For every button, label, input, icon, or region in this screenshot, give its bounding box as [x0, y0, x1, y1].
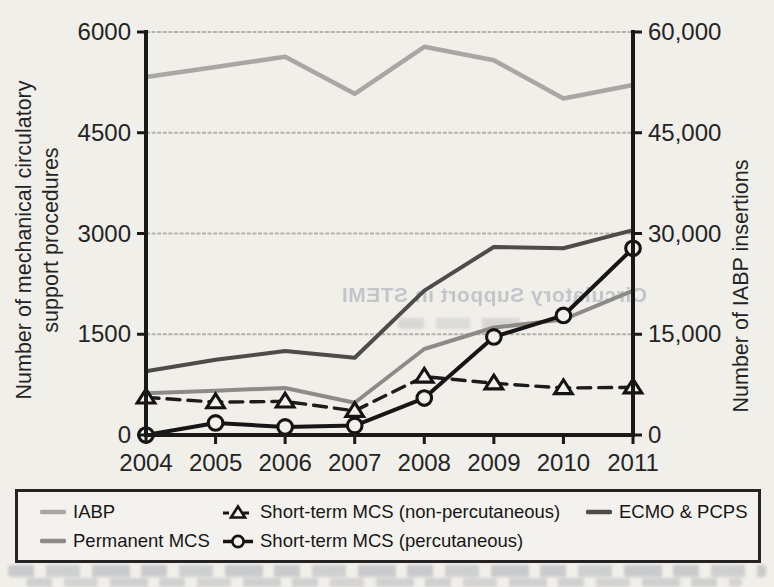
svg-text:2011: 2011 [607, 449, 659, 476]
svg-text:0: 0 [118, 421, 131, 448]
legend-item-iabp: IABP [40, 501, 115, 523]
svg-text:3000: 3000 [78, 220, 131, 247]
legend-label-permanent-mcs: Permanent MCS [73, 530, 210, 552]
legend-label-ecmo-pcps: ECMO & PCPS [619, 501, 748, 523]
svg-text:support procedures: support procedures [39, 147, 63, 332]
legend-label-short-term-percutaneous: Short-term MCS (percutaneous) [260, 530, 523, 552]
ecmo-pcps-line-swatch [586, 506, 612, 518]
svg-text:2005: 2005 [189, 449, 242, 476]
svg-text:30,000: 30,000 [648, 220, 721, 247]
svg-text:2009: 2009 [467, 449, 520, 476]
legend-item-short-term-percutaneous: Short-term MCS (percutaneous) [223, 530, 523, 552]
iabp-line-swatch [40, 506, 66, 518]
legend-label-short-term-nonpercutaneous: Short-term MCS (non-percutaneous) [260, 501, 560, 523]
svg-text:2010: 2010 [537, 449, 590, 476]
permanent-mcs-line-swatch [40, 535, 66, 547]
chart-svg: 01500300045006000015,00030,00045,00060,0… [0, 0, 774, 486]
svg-text:Number of mechanical circulato: Number of mechanical circulatory [12, 80, 36, 399]
circle-line-swatch [223, 533, 253, 550]
legend-item-permanent-mcs: Permanent MCS [40, 530, 210, 552]
svg-text:0: 0 [648, 421, 661, 448]
legend-item-short-term-nonpercutaneous: Short-term MCS (non-percutaneous) [223, 501, 560, 523]
svg-text:60,000: 60,000 [648, 18, 721, 45]
chart-legend: IABP Permanent MCS Short-term MCS (non-p… [15, 489, 761, 563]
triangle-line-swatch [223, 504, 253, 521]
svg-text:1500: 1500 [78, 320, 131, 347]
svg-text:2004: 2004 [119, 449, 172, 476]
svg-text:15,000: 15,000 [648, 320, 721, 347]
svg-text:2006: 2006 [258, 449, 311, 476]
legend-label-iabp: IABP [73, 501, 115, 523]
svg-text:2007: 2007 [328, 449, 381, 476]
svg-text:45,000: 45,000 [648, 119, 721, 146]
figure-page: Circulatory Support in STEMI 01500300045… [0, 0, 774, 587]
svg-text:4500: 4500 [78, 119, 131, 146]
svg-text:2008: 2008 [398, 449, 451, 476]
showthrough-text-line-2 [26, 578, 742, 587]
showthrough-text-line-1 [8, 565, 766, 577]
legend-item-ecmo-pcps: ECMO & PCPS [586, 501, 748, 523]
svg-text:6000: 6000 [78, 18, 131, 45]
svg-text:Number of IABP insertions: Number of IABP insertions [729, 160, 753, 413]
